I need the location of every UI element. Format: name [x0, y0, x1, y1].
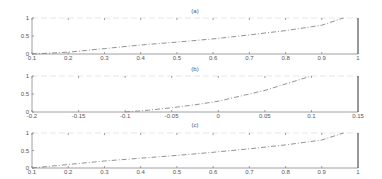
subplot-title: (a) [191, 8, 198, 14]
subplot-c: (c)0.10.20.30.40.50.60.70.80.9100.51 [21, 122, 361, 175]
y-tick-label: 0.5 [21, 91, 30, 97]
y-tick-label: 1 [26, 130, 30, 136]
x-tick-label: 0.7 [245, 55, 254, 61]
data-curve [125, 76, 311, 112]
chart-figure: (a)0.10.20.30.40.50.60.70.80.9100.51(b)-… [0, 0, 382, 179]
x-tick-label: 0.7 [245, 169, 254, 175]
x-tick-label: 0.1 [307, 113, 316, 119]
x-tick-label: 0.6 [209, 55, 218, 61]
x-tick-label: -0.1 [120, 113, 131, 119]
x-tick-label: 0.5 [173, 55, 182, 61]
y-tick-label: 0.5 [21, 33, 30, 39]
x-tick-label: 0.05 [259, 113, 271, 119]
x-tick-label: 0 [217, 113, 221, 119]
x-tick-label: 0.1 [28, 169, 37, 175]
x-tick-label: 0.2 [64, 55, 73, 61]
subplot-b: (b)-0.2-0.15-0.1-0.0500.050.10.1500.51 [21, 66, 365, 119]
data-curve [32, 18, 344, 54]
subplot-a: (a)0.10.20.30.40.50.60.70.80.9100.51 [21, 8, 361, 61]
x-tick-label: 0.3 [100, 55, 109, 61]
y-tick-label: 0.5 [21, 148, 30, 154]
x-tick-label: 0.1 [28, 55, 37, 61]
x-tick-label: 0.8 [281, 169, 290, 175]
x-tick-label: 0.5 [173, 169, 182, 175]
x-tick-label: 0.4 [136, 55, 145, 61]
x-tick-label: 0.4 [136, 169, 145, 175]
x-tick-label: 0.9 [318, 169, 327, 175]
x-tick-label: 0.15 [352, 113, 364, 119]
x-tick-label: -0.15 [72, 113, 86, 119]
x-tick-label: 0.3 [100, 169, 109, 175]
x-tick-label: 0.9 [318, 55, 327, 61]
subplot-title: (b) [191, 66, 198, 72]
x-tick-label: -0.05 [165, 113, 179, 119]
data-curve [32, 133, 344, 168]
x-tick-label: 0.6 [209, 169, 218, 175]
subplot-title: (c) [192, 122, 199, 128]
y-tick-label: 1 [26, 73, 30, 79]
x-tick-label: 1 [356, 55, 360, 61]
x-tick-label: 0.8 [281, 55, 290, 61]
x-tick-label: 0.2 [64, 169, 73, 175]
y-tick-label: 1 [26, 15, 30, 21]
x-tick-label: 1 [356, 169, 360, 175]
